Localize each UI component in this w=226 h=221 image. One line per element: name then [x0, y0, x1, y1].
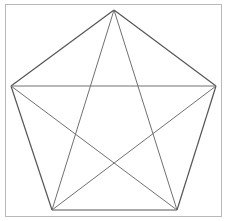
- edge-bottom-left-to-left: [11, 86, 52, 210]
- diagonal-left-to-bottom-right: [11, 86, 177, 210]
- edge-right-to-bottom-right: [177, 86, 216, 210]
- pentagon-edges: [11, 10, 216, 210]
- frame-border: [6, 5, 222, 217]
- diagonal-right-to-bottom-left: [52, 86, 216, 210]
- diagonal-top-to-bottom-left: [52, 10, 114, 210]
- diagonal-top-to-bottom-right: [114, 10, 177, 210]
- edge-top-to-right: [114, 10, 216, 86]
- edge-left-to-top: [11, 10, 114, 86]
- pentagram-diagram: [0, 0, 226, 221]
